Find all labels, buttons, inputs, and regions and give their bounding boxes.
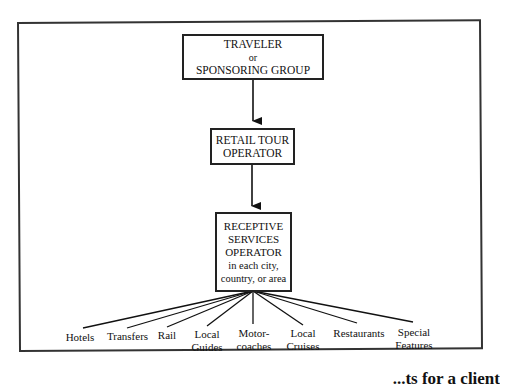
node-traveler: TRAVELER or SPONSORING GROUP xyxy=(182,34,324,80)
leaf-hotels: Hotels xyxy=(55,331,105,344)
node-traveler-line2: or xyxy=(184,51,322,64)
leaf-local-guides-line1: Local xyxy=(185,328,229,341)
node-receptive-line4: in each city, xyxy=(217,259,290,272)
node-receptive-line1: RECEPTIVE xyxy=(217,220,290,233)
leaf-motorcoaches-line1: Motor- xyxy=(228,327,280,340)
leaf-restaurants-label: Restaurants xyxy=(328,327,390,340)
node-receptive-line2: SERVICES xyxy=(217,233,290,246)
node-traveler-line1: TRAVELER xyxy=(184,38,322,51)
leaf-special-features-line1: Special xyxy=(389,326,439,339)
node-receptive-line3: OPERATOR xyxy=(217,246,290,259)
leaf-special-features-line2: Features xyxy=(389,339,439,352)
node-retail-line2: OPERATOR xyxy=(212,147,293,160)
node-receptive-line5: country, or area xyxy=(217,272,290,285)
node-retail-tour-operator: RETAIL TOUR OPERATOR xyxy=(210,128,295,165)
leaf-local-guides-line2: Guides xyxy=(185,341,229,354)
figure-caption-partial: ...ts for a client xyxy=(20,369,500,388)
leaf-motorcoaches-line2: coaches xyxy=(228,340,280,353)
leaf-transfers: Transfers xyxy=(100,330,155,343)
leaf-restaurants: Restaurants xyxy=(328,327,390,340)
leaf-local-cruises-line1: Local xyxy=(281,327,325,340)
leaf-transfers-label: Transfers xyxy=(100,330,155,343)
fan-out-lines xyxy=(83,291,413,328)
node-traveler-line3: SPONSORING GROUP xyxy=(184,64,322,77)
leaf-local-cruises: Local Cruises xyxy=(281,327,325,353)
node-receptive-services-operator: RECEPTIVE SERVICES OPERATOR in each city… xyxy=(215,212,292,292)
leaf-rail: Rail xyxy=(150,329,184,342)
leaf-local-cruises-line2: Cruises xyxy=(281,340,325,353)
leaf-motorcoaches: Motor- coaches xyxy=(228,327,280,353)
leaf-local-guides: Local Guides xyxy=(185,328,229,354)
node-retail-line1: RETAIL TOUR xyxy=(212,134,293,147)
leaf-hotels-label: Hotels xyxy=(55,331,105,344)
leaf-rail-label: Rail xyxy=(150,329,184,342)
leaf-special-features: Special Features xyxy=(389,326,439,352)
